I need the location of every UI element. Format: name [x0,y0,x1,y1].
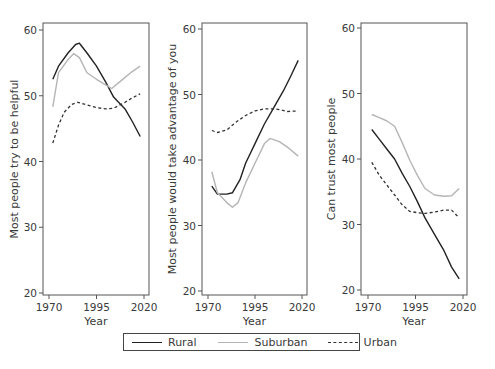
x-tick-label: 1970 [195,301,222,313]
x-axis-title: Year [83,315,108,328]
series-line-suburban [53,54,140,107]
legend-label-urban: Urban [364,336,397,349]
y-tick-label: 30 [342,219,355,231]
y-tick-label: 60 [24,24,37,36]
legend-item-urban: Urban [328,336,397,349]
y-tick-label: 30 [24,221,37,233]
x-tick-label: 2020 [450,301,477,313]
series-line-rural [372,130,459,279]
y-tick-label: 20 [24,287,37,299]
y-tick-label: 20 [183,285,196,297]
y-tick-label: 60 [342,22,355,34]
series-line-suburban [212,138,298,207]
y-tick-label: 50 [24,90,37,102]
x-tick-label: 1970 [36,301,63,313]
series-line-urban [212,109,298,133]
plot-frame [43,23,149,295]
x-tick-label: 1970 [355,301,382,313]
legend-item-rural: Rural [132,336,196,349]
x-tick-label: 2020 [131,301,158,313]
y-tick-label: 50 [183,89,196,101]
legend: Rural Suburban Urban [123,333,360,351]
chart-panel-1: 2030405060197019952020YearMost people tr… [8,23,157,328]
y-axis-title: Can trust most people [325,98,338,221]
y-axis-title: Most people try to be helpful [8,80,21,239]
series-line-urban [53,94,140,143]
x-tick-label: 1995 [402,301,429,313]
plot-frame [202,23,307,295]
y-tick-label: 40 [183,154,196,166]
series-line-rural [53,43,140,136]
legend-item-suburban: Suburban [218,336,307,349]
y-tick-label: 60 [183,23,196,35]
x-tick-label: 2020 [289,301,316,313]
series-line-rural [212,60,298,194]
y-tick-label: 30 [183,220,196,232]
chart-canvas: 2030405060197019952020YearMost people tr… [0,0,495,369]
y-axis-title: Most people would take advantage of you [166,44,179,275]
legend-label-rural: Rural [168,336,196,349]
y-tick-label: 50 [342,88,355,100]
y-tick-label: 40 [24,156,37,168]
x-tick-label: 1995 [83,301,110,313]
plot-frame [361,23,467,295]
legend-label-suburban: Suburban [254,336,307,349]
y-tick-label: 40 [342,153,355,165]
x-axis-title: Year [401,315,426,328]
urban-line-swatch-icon [328,342,358,343]
x-axis-title: Year [242,315,267,328]
x-tick-label: 1995 [242,301,269,313]
rural-line-swatch-icon [132,342,162,343]
chart-panel-3: 2030405060197019952020YearCan trust most… [325,22,476,328]
y-tick-label: 20 [342,284,355,296]
suburban-line-swatch-icon [218,342,248,343]
series-line-suburban [372,115,459,197]
chart-panel-2: 2030405060197019952020YearMost people wo… [166,23,315,328]
